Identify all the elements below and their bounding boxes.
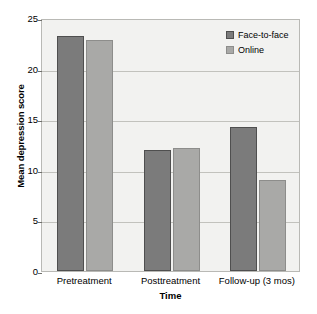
x-tick-label: Pretreatment	[57, 275, 112, 287]
legend-entry: Face-to-face	[226, 28, 298, 41]
y-tick-label: 10	[14, 166, 38, 176]
bar-chart-figure: Mean depression score 0510152025 Face-to…	[0, 0, 317, 314]
bar-pretreatment-face-to-face	[57, 36, 84, 271]
legend-entry: Online	[226, 43, 298, 56]
legend: Face-to-faceOnline	[226, 28, 298, 58]
y-tick-label: 20	[14, 65, 38, 75]
y-tick-label: 25	[14, 14, 38, 24]
y-tick-label: 0	[14, 267, 38, 277]
x-axis-tick-labels: PretreatmentPosttreatmentFollow-up (3 mo…	[41, 275, 300, 288]
bar-posttreatment-face-to-face	[144, 150, 171, 271]
bar-follow-up-3-mos-face-to-face	[230, 127, 257, 271]
x-axis-title: Time	[41, 290, 300, 302]
y-axis-tick-labels: 0510152025	[14, 19, 38, 272]
legend-label: Online	[238, 45, 264, 55]
y-tick-label: 5	[14, 216, 38, 226]
x-tick-label: Posttreatment	[141, 275, 200, 287]
bar-pretreatment-online	[86, 40, 113, 271]
bar-posttreatment-online	[173, 148, 200, 271]
bar-follow-up-3-mos-online	[259, 180, 286, 271]
bar-group	[57, 20, 113, 271]
legend-label: Face-to-face	[238, 30, 289, 40]
x-tick-label: Follow-up (3 mos)	[219, 275, 295, 287]
y-tick-label: 15	[14, 115, 38, 125]
legend-swatch-icon	[226, 31, 234, 39]
legend-swatch-icon	[226, 46, 234, 54]
bar-group	[144, 20, 200, 271]
y-tick-mark	[38, 273, 42, 274]
